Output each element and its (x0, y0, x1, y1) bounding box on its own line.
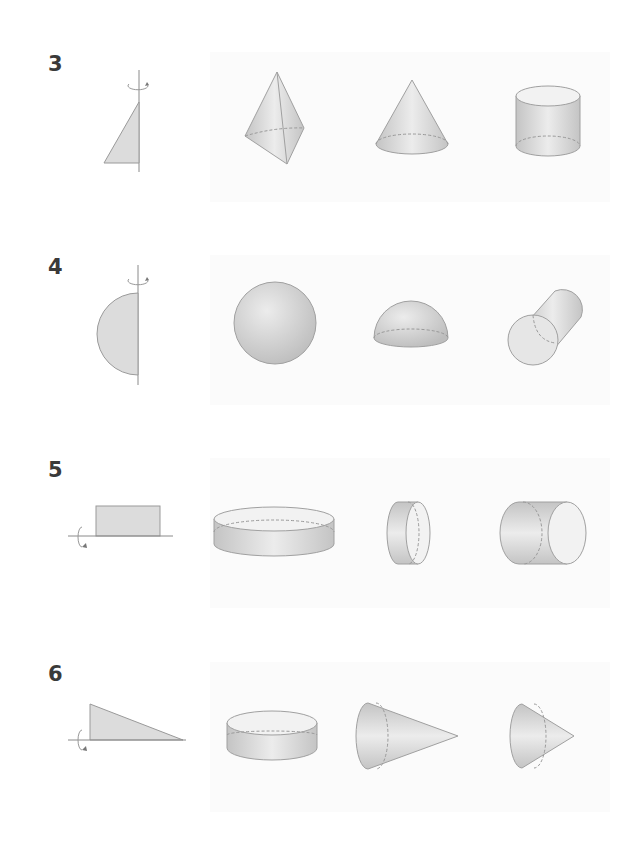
source-figure-rectangle (68, 503, 178, 553)
source-figure-semicircle (95, 265, 155, 390)
option-flat-cylinder[interactable] (213, 506, 335, 558)
source-figure-triangle (95, 70, 155, 180)
option-sphere[interactable] (233, 281, 317, 365)
option-wide-cylinder[interactable] (499, 501, 589, 565)
option-triangular-pyramid[interactable] (245, 72, 305, 167)
option-hemisphere[interactable] (373, 300, 449, 350)
problem-number: 4 (48, 255, 63, 279)
problem-number: 3 (48, 52, 63, 76)
rotation-arrow-icon (128, 84, 148, 90)
option-cylinder[interactable] (515, 86, 583, 161)
problem-number: 6 (48, 662, 63, 686)
option-cone-small[interactable] (508, 703, 576, 769)
problem-4: 4 (0, 255, 640, 455)
problem-number: 5 (48, 458, 63, 482)
problem-6: 6 (0, 662, 640, 844)
rotation-arrow-icon (78, 527, 82, 547)
option-cone[interactable] (375, 80, 450, 160)
option-flat-cylinder[interactable] (226, 710, 318, 762)
source-figure-triangle-horizontal (68, 702, 193, 762)
option-narrow-cylinder[interactable] (386, 501, 436, 565)
problem-5: 5 (0, 458, 640, 658)
problem-3: 3 (0, 52, 640, 252)
option-tilted-cylinder[interactable] (505, 285, 585, 367)
option-cone-large[interactable] (356, 702, 460, 770)
